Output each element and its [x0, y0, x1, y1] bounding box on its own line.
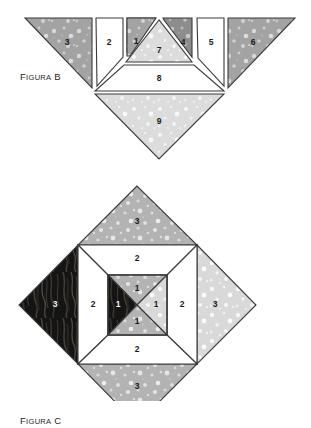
piece-8-label: 8: [157, 73, 162, 83]
piece-1-inner-right-label: 1: [154, 299, 159, 309]
figura-c-caption-letter: C: [51, 415, 61, 426]
figura-c-svg: 3 3 3 3 2 2: [0, 180, 311, 401]
piece-3-outer-bottom-group[interactable]: 3: [78, 364, 197, 401]
piece-7-label: 7: [157, 45, 162, 55]
piece-8-group[interactable]: 8: [95, 65, 224, 91]
piece-2-label: 2: [107, 37, 112, 47]
figura-b-svg: 3 2 1 7 4: [0, 0, 311, 200]
figura-c-container: 3 3 3 3 2 2: [0, 180, 311, 401]
figura-c-caption-smallcaps: IGURA: [26, 417, 51, 426]
piece-5-label: 5: [209, 37, 214, 47]
piece-2-middle-top-label: 2: [135, 253, 140, 263]
piece-1-inner-bottom-label: 1: [135, 316, 140, 326]
piece-3-outer-bottom-label: 3: [135, 381, 140, 391]
piece-3-outer-right-group[interactable]: 3: [197, 245, 256, 364]
piece-9-group[interactable]: 9: [95, 94, 224, 159]
figura-b-caption-letter: B: [51, 71, 61, 82]
piece-6-shape[interactable]: [228, 18, 295, 88]
piece-3-outer-right-label: 3: [213, 299, 218, 309]
figura-b-container: 3 2 1 7 4: [0, 0, 311, 200]
piece-1-inner-top-label: 1: [135, 283, 140, 293]
piece-2-middle-left-label: 2: [91, 299, 96, 309]
figura-b-pieces: 3 2 1 7 4: [25, 18, 295, 159]
piece-3-outer-left-group[interactable]: 3: [19, 245, 78, 364]
piece-2-middle-bottom-label: 2: [135, 344, 140, 354]
figura-c-pieces: 3 3 3 3 2 2: [19, 186, 256, 401]
piece-3-outer-top-group[interactable]: 3: [78, 186, 197, 245]
piece-4-label: 4: [181, 37, 186, 47]
piece-9-shape[interactable]: [95, 94, 224, 159]
piece-1-label: 1: [134, 36, 139, 46]
piece-6-group[interactable]: 6: [228, 18, 295, 88]
piece-3-outer-left-shape[interactable]: [19, 245, 78, 364]
figura-c-caption: FIGURA C: [20, 410, 61, 428]
piece-3-outer-right-shape[interactable]: [197, 245, 256, 364]
piece-9-label: 9: [157, 116, 162, 126]
piece-3-label: 3: [65, 37, 70, 47]
piece-6-label: 6: [251, 37, 256, 47]
piece-3-outer-top-label: 3: [135, 216, 140, 226]
piece-1-inner-left-label: 1: [116, 299, 121, 309]
figura-b-caption: FIGURA B: [20, 66, 61, 84]
piece-3-outer-left-label: 3: [53, 299, 58, 309]
piece-2-middle-right-label: 2: [180, 299, 185, 309]
figura-b-caption-smallcaps: IGURA: [26, 73, 51, 82]
